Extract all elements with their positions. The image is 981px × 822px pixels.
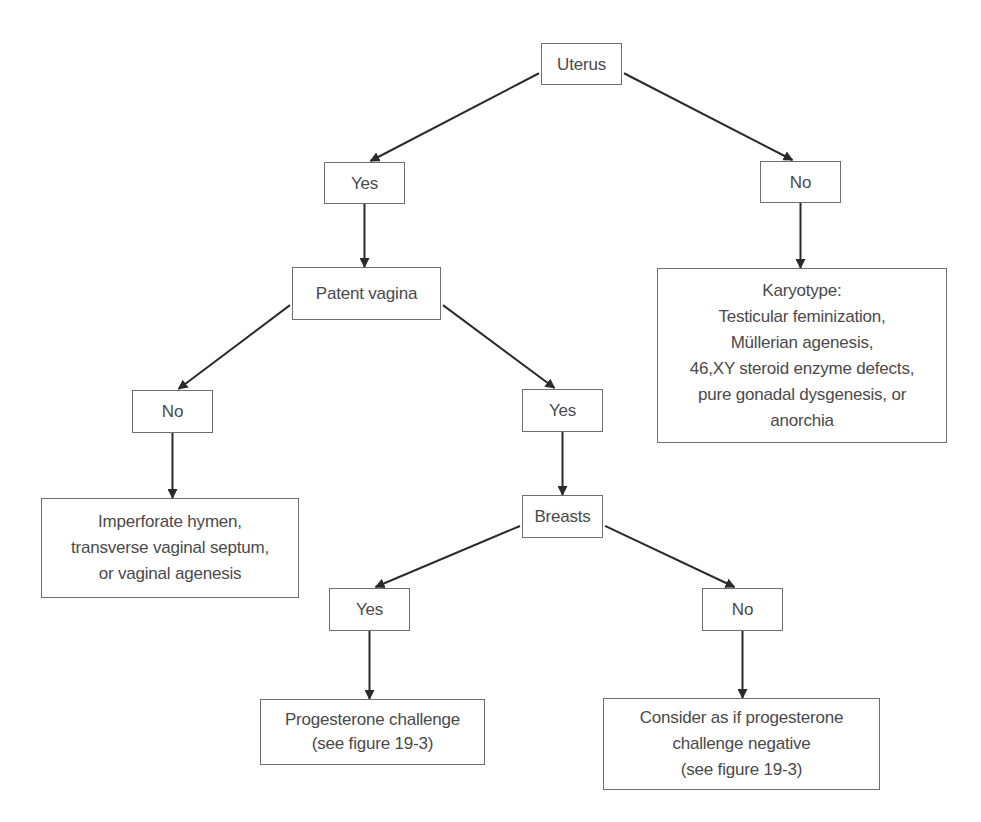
node-breasts: Breasts xyxy=(522,495,603,538)
arrow-patent_vagina-to-vagina_no xyxy=(179,305,291,389)
node-progesterone-challenge: Progesterone challenge (see figure 19-3) xyxy=(260,699,485,765)
arrow-breasts-to-breasts_yes xyxy=(376,526,521,587)
node-vagina-yes: Yes xyxy=(522,389,603,432)
node-uterus-yes: Yes xyxy=(324,162,405,204)
node-vagina-no: No xyxy=(132,390,213,433)
node-consider-negative: Consider as if progesterone challenge ne… xyxy=(603,698,880,790)
arrow-breasts-to-breasts_no xyxy=(605,526,735,587)
node-patent-vagina: Patent vagina xyxy=(292,267,441,320)
node-breasts-no: No xyxy=(702,588,783,631)
node-karyotype: Karyotype: Testicular feminization, Müll… xyxy=(657,268,947,443)
node-imperforate-hymen: Imperforate hymen, transverse vaginal se… xyxy=(41,498,299,598)
arrow-uterus-to-uterus_yes xyxy=(371,73,540,161)
node-breasts-yes: Yes xyxy=(329,588,410,631)
flowchart-canvas: Uterus Yes No Patent vagina Karyotype: T… xyxy=(0,0,981,822)
node-uterus-no: No xyxy=(760,161,841,203)
arrow-patent_vagina-to-vagina_yes xyxy=(443,305,555,388)
arrow-uterus-to-uterus_no xyxy=(624,73,793,160)
node-uterus: Uterus xyxy=(541,43,622,85)
